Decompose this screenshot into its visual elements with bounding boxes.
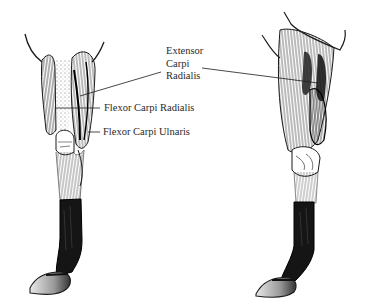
label-line: Carpi <box>166 58 203 71</box>
label-line: Radialis <box>166 70 203 83</box>
label-line: Extensor <box>166 45 203 58</box>
side-view-leg <box>256 12 345 297</box>
label-extensor-carpi-radialis: Extensor Carpi Radialis <box>166 45 203 83</box>
front-view-leg <box>25 34 104 294</box>
label-flexor-carpi-ulnaris: Flexor Carpi Ulnaris <box>103 126 190 139</box>
anatomy-diagram: Extensor Carpi Radialis Flexor Carpi Rad… <box>0 0 368 306</box>
label-flexor-carpi-radialis: Flexor Carpi Radialis <box>104 102 194 115</box>
